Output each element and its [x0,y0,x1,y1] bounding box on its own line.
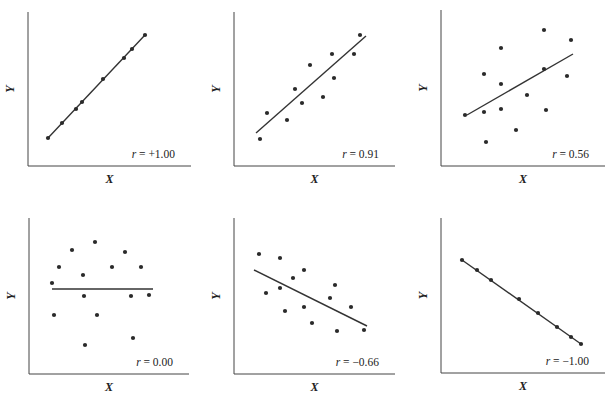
data-point [499,107,503,111]
data-point [50,281,54,285]
data-point [57,265,61,269]
regression-line [254,270,367,326]
x-axis-label: X [309,380,319,394]
correlation-annotation: r = −1.00 [546,355,590,367]
data-point [475,268,479,272]
data-point [525,93,529,97]
data-point [83,343,87,347]
axes [441,10,605,166]
data-point [514,128,518,132]
y-axis-label: Y [416,83,430,92]
data-point [278,286,282,290]
data-point [310,321,314,325]
regression-line [256,36,366,133]
data-point [130,47,134,51]
data-point [95,313,99,317]
data-point [300,101,304,105]
x-axis-label: X [518,379,528,393]
scatter-panel-3: YXr = 0.56 [416,10,605,186]
data-point [80,100,84,104]
data-point [332,76,336,80]
data-point [321,95,325,99]
x-axis-label: X [518,172,528,186]
data-point [122,56,126,60]
data-point [123,250,127,254]
y-axis-label: Y [209,291,223,300]
data-point [565,74,569,78]
scatter-panel-6: YXr = −1.00 [416,218,605,393]
data-point [463,113,467,117]
data-point [335,329,339,333]
data-point [82,294,86,298]
data-point [352,52,356,56]
data-point [482,110,486,114]
scatter-panel-1: YXr = +1.00 [3,12,191,186]
data-point [330,52,334,56]
data-point [328,296,332,300]
data-point [482,72,486,76]
axes [29,218,189,374]
scatter-panel-2: YXr = 0.91 [209,12,395,186]
data-point [517,297,521,301]
x-axis-label: X [104,172,114,186]
data-point [302,268,306,272]
data-point [278,256,282,260]
axes [28,12,191,166]
y-axis-label: Y [209,84,223,93]
regression-line [467,54,573,115]
correlation-annotation: r = 0.56 [552,148,589,160]
data-point [46,136,50,140]
data-point [93,240,97,244]
data-point [542,67,546,71]
data-point [302,305,306,309]
data-point [579,342,583,346]
correlation-annotation: r = +1.00 [132,148,176,160]
x-axis-label: X [104,380,114,394]
data-point [308,63,312,67]
axes [441,218,605,373]
data-point [484,140,488,144]
data-point [542,28,546,32]
scatter-panel-5: YXr = −0.66 [209,218,395,394]
data-point [569,335,573,339]
correlation-annotation: r = 0.91 [342,148,379,160]
data-point [293,87,297,91]
correlation-figure: YXr = +1.00YXr = 0.91YXr = 0.56YXr = 0.0… [0,0,609,403]
data-point [81,273,85,277]
y-axis-label: Y [3,84,17,93]
data-point [110,265,114,269]
y-axis-label: Y [4,291,18,300]
data-point [489,278,493,282]
data-point [131,336,135,340]
data-point [143,33,147,37]
correlation-annotation: r = 0.00 [136,356,173,368]
data-point [101,77,105,81]
data-point [333,283,337,287]
data-point [264,291,268,295]
data-point [349,305,353,309]
data-point [139,265,143,269]
data-point [555,325,559,329]
regression-line [462,260,581,344]
data-point [52,313,56,317]
data-point [60,121,64,125]
data-point [291,276,295,280]
x-axis-label: X [309,172,319,186]
data-point [70,248,74,252]
data-point [258,137,262,141]
axes [234,12,395,166]
data-point [257,252,261,256]
data-point [536,311,540,315]
y-axis-label: Y [416,290,430,299]
correlation-annotation: r = −0.66 [336,356,380,368]
data-point [285,118,289,122]
scatter-panel-4: YXr = 0.00 [4,218,189,394]
data-point [544,108,548,112]
data-point [265,111,269,115]
data-point [362,328,366,332]
data-point [358,33,362,37]
data-point [129,294,133,298]
data-point [499,46,503,50]
data-point [147,293,151,297]
data-point [499,82,503,86]
